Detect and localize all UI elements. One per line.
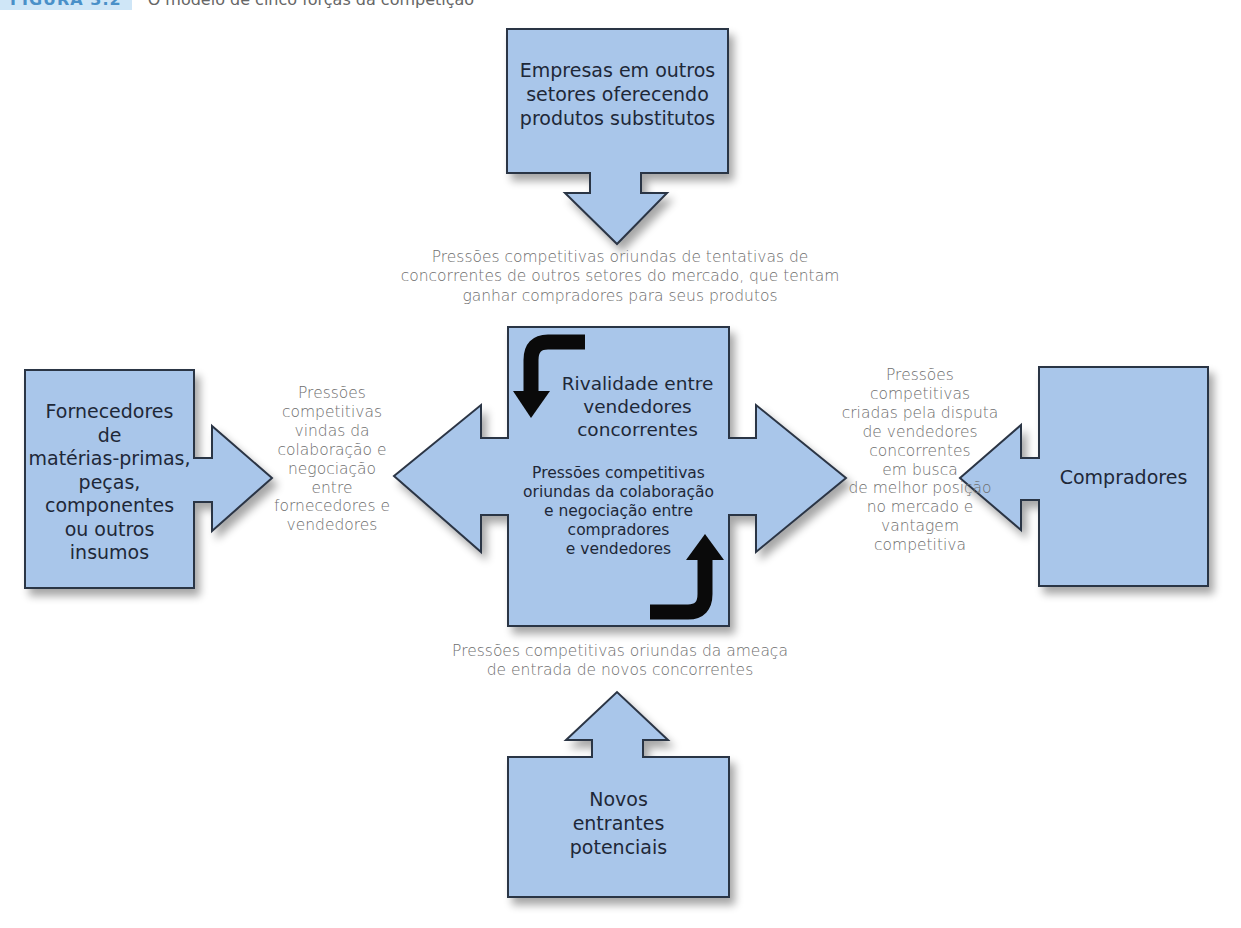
label-line: ou outros: [25, 518, 194, 542]
label-line: Novos: [508, 788, 729, 812]
label-line: oriundas da colaboração: [508, 483, 729, 502]
label-line: produtos substitutos: [507, 107, 728, 131]
rivalry-title: Rivalidade entre vendedores concorrentes: [545, 372, 730, 441]
label-line: componentes: [25, 494, 194, 518]
new-entrants-box-label: Novos entrantes potenciais: [508, 788, 729, 859]
new-entrants-pressure-text: Pressões competitivas oriundas da ameaça…: [410, 642, 830, 681]
text-line: Pressões: [840, 366, 1000, 385]
text-line: colaboração e: [262, 441, 402, 460]
buyers-box-label: Compradores: [1039, 466, 1208, 490]
text-line: ganhar compradores para seus produtos: [360, 287, 880, 306]
text-line: entre: [262, 479, 402, 498]
suppliers-box-label: Fornecedores de matérias-primas, peças, …: [25, 400, 194, 565]
text-line: vendedores: [262, 516, 402, 535]
text-line: negociação: [262, 460, 402, 479]
label-line: matérias-primas,: [25, 447, 194, 471]
label-line: Rivalidade entre: [545, 372, 730, 395]
label-line: Compradores: [1039, 466, 1208, 490]
text-line: competitiva: [840, 536, 1000, 555]
buyers-pressure-text: Pressões competitivas criadas pela dispu…: [840, 366, 1000, 555]
text-line: competitivas: [840, 385, 1000, 404]
text-line: vantagem: [840, 517, 1000, 536]
text-line: fornecedores e: [262, 497, 402, 516]
text-line: concorrentes de outros setores do mercad…: [360, 267, 880, 286]
label-line: vendedores: [545, 395, 730, 418]
label-line: Fornecedores: [25, 400, 194, 424]
text-line: criadas pela disputa: [840, 404, 1000, 423]
rivalry-subtext: Pressões competitivas oriundas da colabo…: [508, 464, 729, 559]
text-line: de melhor posição: [840, 479, 1000, 498]
text-line: Pressões: [262, 384, 402, 403]
text-line: Pressões competitivas oriundas da ameaça: [410, 642, 830, 661]
label-line: e negociação entre: [508, 502, 729, 521]
label-line: concorrentes: [545, 418, 730, 441]
text-line: no mercado e: [840, 498, 1000, 517]
text-line: em busca: [840, 461, 1000, 480]
suppliers-pressure-text: Pressões competitivas vindas da colabora…: [262, 384, 402, 535]
text-line: vindas da: [262, 422, 402, 441]
substitutes-box-label: Empresas em outros setores oferecendo pr…: [507, 59, 728, 130]
label-line: de: [25, 424, 194, 448]
label-line: Pressões competitivas: [508, 464, 729, 483]
label-line: entrantes: [508, 812, 729, 836]
label-line: peças,: [25, 471, 194, 495]
substitutes-pressure-text: Pressões competitivas oriundas de tentat…: [360, 248, 880, 306]
text-line: de vendedores: [840, 423, 1000, 442]
text-line: concorrentes: [840, 442, 1000, 461]
label-line: potenciais: [508, 836, 729, 860]
label-line: compradores: [508, 521, 729, 540]
label-line: setores oferecendo: [507, 83, 728, 107]
label-line: e vendedores: [508, 540, 729, 559]
text-line: competitivas: [262, 403, 402, 422]
text-line: de entrada de novos concorrentes: [410, 661, 830, 680]
label-line: insumos: [25, 541, 194, 565]
text-line: Pressões competitivas oriundas de tentat…: [360, 248, 880, 267]
label-line: Empresas em outros: [507, 59, 728, 83]
